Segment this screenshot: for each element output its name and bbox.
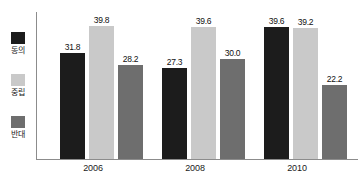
bar-group-2008: 27.3 39.6 30.0 (162, 12, 248, 159)
bar-group-2010: 39.6 39.2 22.2 (264, 12, 350, 159)
x-tick-2010: 2010 (267, 163, 327, 174)
bar-2008-neutral: 39.6 (191, 27, 216, 159)
legend-item-2: 반대 (0, 116, 36, 140)
bar-value-2008-oppose: 30.0 (225, 49, 241, 58)
bar-chart: 동의 중립 반대 31.8 39.8 28.2 (0, 0, 362, 189)
bar-value-2006-oppose: 28.2 (123, 55, 139, 64)
bar-2010-agree: 39.6 (264, 27, 289, 159)
bar-2008-agree: 27.3 (162, 68, 187, 159)
legend-label-agree: 동의 (0, 46, 36, 56)
bar-value-2010-agree: 39.6 (269, 17, 285, 26)
bar-value-2008-agree: 27.3 (167, 58, 183, 67)
plot-area: 31.8 39.8 28.2 27.3 39.6 30.0 39.6 (36, 12, 358, 160)
x-tick-2006: 2006 (63, 163, 123, 174)
bar-2006-agree: 31.8 (60, 53, 85, 159)
bar-2006-oppose: 28.2 (118, 65, 143, 159)
x-tick-2008: 2008 (165, 163, 225, 174)
chart-legend: 동의 중립 반대 (0, 0, 36, 189)
legend-swatch-neutral (11, 74, 25, 86)
legend-item-1: 중립 (0, 74, 36, 98)
bar-group-2006: 31.8 39.8 28.2 (60, 12, 146, 159)
legend-swatch-oppose (11, 116, 25, 128)
legend-label-neutral: 중립 (0, 88, 36, 98)
bar-2008-oppose: 30.0 (220, 59, 245, 159)
bar-value-2008-neutral: 39.6 (196, 17, 212, 26)
legend-item-0: 동의 (0, 32, 36, 56)
bar-value-2010-oppose: 22.2 (327, 75, 343, 84)
legend-label-oppose: 반대 (0, 130, 36, 140)
bar-2010-oppose: 22.2 (322, 85, 347, 159)
bar-value-2010-neutral: 39.2 (298, 18, 314, 27)
bar-2010-neutral: 39.2 (293, 28, 318, 159)
x-axis-line (36, 159, 358, 160)
y-axis-line (36, 12, 37, 160)
bar-2006-neutral: 39.8 (89, 26, 114, 159)
legend-swatch-agree (11, 32, 25, 44)
bar-value-2006-agree: 31.8 (65, 43, 81, 52)
bar-value-2006-neutral: 39.8 (94, 16, 110, 25)
